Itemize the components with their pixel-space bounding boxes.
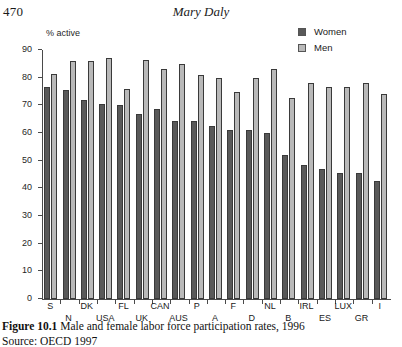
bar-group: [246, 50, 262, 299]
bar-women-uk: [136, 114, 142, 299]
y-tick-label: 30: [22, 210, 32, 220]
y-tick-label: 60: [22, 127, 32, 137]
bar-women-usa: [99, 104, 105, 299]
bar-group: [63, 50, 79, 299]
x-label-fl: FL: [118, 301, 129, 311]
bar-women-gr: [356, 173, 362, 299]
x-label-s: S: [47, 301, 53, 311]
bar-women-aus: [172, 121, 178, 299]
y-tick-label: 70: [22, 99, 32, 109]
y-tick: 70: [38, 104, 42, 105]
bar-men-aus: [179, 64, 185, 299]
bar-group: [374, 50, 390, 299]
bar-men-n: [70, 61, 76, 299]
bar-group: [81, 50, 97, 299]
bar-women-s: [44, 87, 50, 299]
x-label-irl: IRL: [300, 301, 314, 311]
x-label-i: I: [379, 301, 382, 311]
bar-group: [172, 50, 188, 299]
y-tick: 40: [38, 187, 42, 188]
x-label-can: CAN: [151, 301, 170, 311]
x-label-dk: DK: [81, 301, 94, 311]
bar-women-p: [191, 121, 197, 299]
figure-caption-text: Male and female labor force participatio…: [60, 320, 305, 332]
bar-men-b: [289, 98, 295, 299]
bar-men-irl: [308, 83, 314, 299]
page-root: 470 Mary Daly % active Women Men 0102030…: [0, 0, 402, 347]
bar-men-dk: [88, 61, 94, 299]
bar-series-container: [43, 50, 391, 299]
bar-group: [44, 50, 60, 299]
bar-group: [227, 50, 243, 299]
legend-swatch-women-icon: [298, 28, 306, 36]
bar-women-irl: [301, 165, 307, 299]
bar-women-i: [374, 181, 380, 299]
y-tick-label: 0: [27, 293, 32, 303]
y-tick-label: 10: [22, 265, 32, 275]
bar-group: [264, 50, 280, 299]
bar-men-lux: [344, 87, 350, 299]
bar-men-usa: [106, 58, 112, 299]
y-tick: 60: [38, 132, 42, 133]
bar-group: [209, 50, 225, 299]
bar-women-dk: [81, 100, 87, 299]
y-tick: 10: [38, 270, 42, 271]
x-label-nl: NL: [264, 301, 276, 311]
bar-women-a: [209, 126, 215, 299]
figure-source: Source: OECD 1997: [2, 335, 400, 346]
bar-group: [282, 50, 298, 299]
bar-men-gr: [363, 83, 369, 299]
legend-item-women: Women: [298, 25, 393, 38]
y-tick: 90: [38, 49, 42, 50]
y-tick: 20: [38, 243, 42, 244]
bar-women-lux: [337, 173, 343, 299]
x-label-f: F: [231, 301, 237, 311]
y-tick-label: 40: [22, 182, 32, 192]
y-tick-label: 50: [22, 155, 32, 165]
bar-men-can: [161, 69, 167, 299]
bar-men-s: [51, 74, 57, 299]
figure-caption: Figure 10.1 Male and female labor force …: [2, 320, 400, 332]
x-label-lux: LUX: [334, 301, 352, 311]
bar-group: [99, 50, 115, 299]
y-tick-label: 20: [22, 238, 32, 248]
bar-men-a: [216, 78, 222, 299]
bar-women-can: [154, 109, 160, 299]
bar-group: [301, 50, 317, 299]
x-label-p: P: [194, 301, 200, 311]
bar-men-d: [253, 78, 259, 299]
bar-men-p: [198, 75, 204, 299]
y-axis-label: % active: [46, 28, 80, 38]
running-head: Mary Daly: [0, 4, 402, 20]
x-axis-line: [42, 299, 391, 300]
legend-label-women: Women: [314, 26, 347, 37]
bar-group: [154, 50, 170, 299]
bar-women-nl: [264, 133, 270, 299]
bar-men-i: [381, 94, 387, 299]
figure-chart: % active Women Men 0102030405060708090 S…: [0, 22, 402, 312]
bar-women-es: [319, 169, 325, 299]
bar-group: [136, 50, 152, 299]
bar-men-fl: [124, 89, 130, 299]
bar-group: [337, 50, 353, 299]
plot-area: 0102030405060708090: [42, 50, 390, 299]
bar-women-fl: [117, 105, 123, 299]
y-tick: 0: [38, 298, 42, 299]
bar-women-d: [246, 130, 252, 299]
y-tick-label: 80: [22, 72, 32, 82]
bar-group: [117, 50, 133, 299]
y-tick: 50: [38, 160, 42, 161]
figure-number: Figure 10.1: [2, 320, 57, 332]
bar-women-b: [282, 155, 288, 299]
y-tick: 80: [38, 77, 42, 78]
bar-men-es: [326, 87, 332, 299]
bar-men-uk: [143, 60, 149, 299]
bar-group: [191, 50, 207, 299]
y-tick: 30: [38, 215, 42, 216]
y-tick-label: 90: [22, 44, 32, 54]
bar-group: [356, 50, 372, 299]
bar-group: [319, 50, 335, 299]
bar-men-f: [234, 92, 240, 300]
bar-men-nl: [271, 69, 277, 299]
bar-women-n: [63, 90, 69, 299]
